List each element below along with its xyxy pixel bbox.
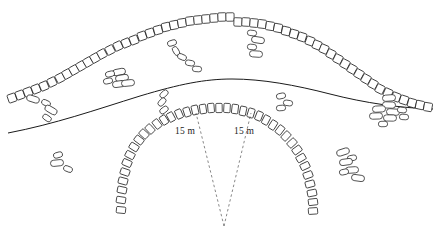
inner-apse-block-wall <box>116 103 318 214</box>
rubble-bottom-right <box>336 147 365 182</box>
radial-dashed-line-left <box>196 113 224 226</box>
outer-curved-block-wall <box>7 13 433 112</box>
rubble-inner-left <box>157 89 169 115</box>
plan-drawing <box>0 0 433 229</box>
rubble-left-end <box>26 94 58 123</box>
figure-canvas: 15 m 15 m <box>0 0 433 229</box>
rubble-top-center <box>247 30 265 58</box>
measurement-label-right: 15 m <box>234 126 254 136</box>
rubble-bottom-left <box>50 151 73 173</box>
rubble-inner-right <box>276 92 293 111</box>
measurement-label-left: 15 m <box>175 126 195 136</box>
rubble-upper-mid <box>167 39 202 72</box>
rubble-mid-left <box>103 68 135 88</box>
